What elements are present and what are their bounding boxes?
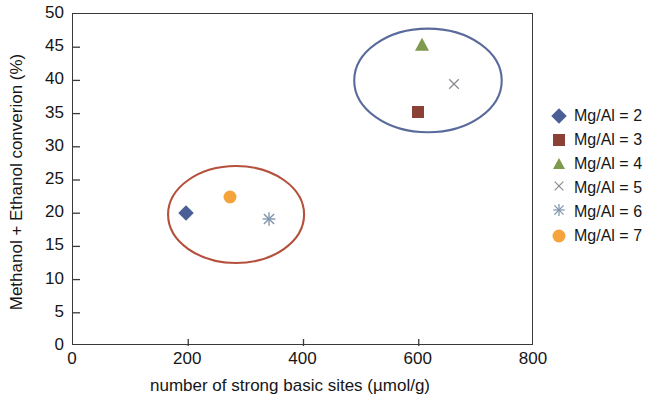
legend-item-mg-al-7[interactable]: Mg/Al = 7 [548,224,668,248]
legend-item-mg-al-6[interactable]: Mg/Al = 6 [548,200,668,224]
legend-item-label: Mg/Al = 7 [570,227,642,245]
y-tick-label: 10 [20,270,64,287]
y-tick-label: 5 [20,303,64,320]
y-tick-label: 20 [20,203,64,220]
legend-item-label: Mg/Al = 5 [570,179,642,197]
legend-item-mg-al-5[interactable]: Mg/Al = 5 [548,176,668,200]
legend-item-mg-al-3[interactable]: Mg/Al = 3 [548,128,668,152]
data-point-mg-al-3 [412,106,424,118]
legend: Mg/Al = 2Mg/Al = 3Mg/Al = 4Mg/Al = 5Mg/A… [548,104,668,248]
y-tick-label: 35 [20,104,64,121]
cross-marker-icon [548,177,570,199]
x-tick-label: 400 [268,350,338,367]
plot-canvas [73,14,534,346]
legend-item-label: Mg/Al = 6 [570,203,642,221]
x-axis-title: number of strong basic sites (µmol/g) [40,376,540,396]
x-tick-label: 0 [37,350,107,367]
x-tick-label: 200 [152,350,222,367]
y-tick-label: 40 [20,70,64,87]
circle-marker-icon [548,225,570,247]
legend-item-mg-al-4[interactable]: Mg/Al = 4 [548,152,668,176]
data-point-mg-al-5 [446,76,462,96]
x-tick-label: 800 [498,350,568,367]
triangle-marker-icon [548,153,570,175]
scatter-chart-figure: Methanol + Ethanol converion (%) number … [0,0,669,406]
y-tick-label: 30 [20,137,64,154]
star-marker-icon [548,201,570,223]
diamond-marker-icon [548,105,570,127]
y-tick-label: 25 [20,170,64,187]
legend-item-mg-al-2[interactable]: Mg/Al = 2 [548,104,668,128]
plot-area [72,13,533,345]
square-marker-icon [548,129,570,151]
legend-item-label: Mg/Al = 2 [570,107,642,125]
y-tick-label: 45 [20,37,64,54]
data-point-mg-al-6 [260,211,277,232]
x-tick-label: 600 [383,350,453,367]
y-tick-label: 15 [20,236,64,253]
legend-item-label: Mg/Al = 3 [570,131,642,149]
legend-item-label: Mg/Al = 4 [570,155,642,173]
data-point-mg-al-7 [223,190,236,203]
data-point-mg-al-4 [415,38,429,51]
y-tick-label: 50 [20,4,64,21]
